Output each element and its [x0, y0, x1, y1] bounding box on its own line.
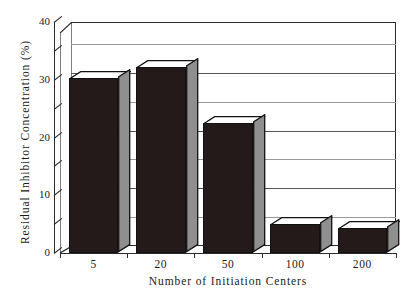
x-tick-label-100: 100: [270, 258, 320, 270]
bar-side-face: [387, 219, 400, 253]
bar-side-face: [253, 114, 266, 253]
x-tick-0: [60, 253, 61, 258]
x-tick-2: [194, 253, 195, 258]
bar-front-face: [136, 67, 186, 253]
bar-100: [270, 217, 320, 253]
bar-front-face: [69, 78, 119, 253]
bar-side-face: [320, 215, 333, 253]
x-tick-label-20: 20: [136, 258, 186, 270]
bar-side-face: [186, 58, 199, 253]
y-tick-label-40: 40: [10, 16, 50, 27]
y-tick-label-10: 10: [10, 189, 50, 200]
bar-200: [338, 221, 388, 253]
y-tick-label-0: 0: [10, 247, 50, 258]
x-tick-label-5: 5: [69, 258, 119, 270]
x-axis-title: Number of Initiation Centers: [60, 275, 396, 287]
x-tick-1: [127, 253, 128, 258]
bar-chart-figure: Residual Inhibitor Concentration (%) 010…: [0, 0, 414, 302]
bar-20: [136, 60, 186, 253]
bar-50: [203, 116, 253, 253]
gridline-35: [71, 44, 396, 45]
y-tick-label-20: 20: [10, 132, 50, 143]
x-tick-5: [396, 253, 397, 258]
x-axis-line: [60, 253, 396, 254]
bar-front-face: [338, 228, 388, 253]
x-tick-3: [262, 253, 263, 258]
bar-front-face: [270, 224, 320, 253]
bar-side-face: [118, 69, 131, 253]
x-tick-label-200: 200: [337, 258, 387, 270]
x-tick-label-50: 50: [203, 258, 253, 270]
bar-5: [69, 71, 119, 253]
y-tick-label-30: 30: [10, 74, 50, 85]
x-tick-4: [329, 253, 330, 258]
bar-front-face: [203, 123, 253, 253]
